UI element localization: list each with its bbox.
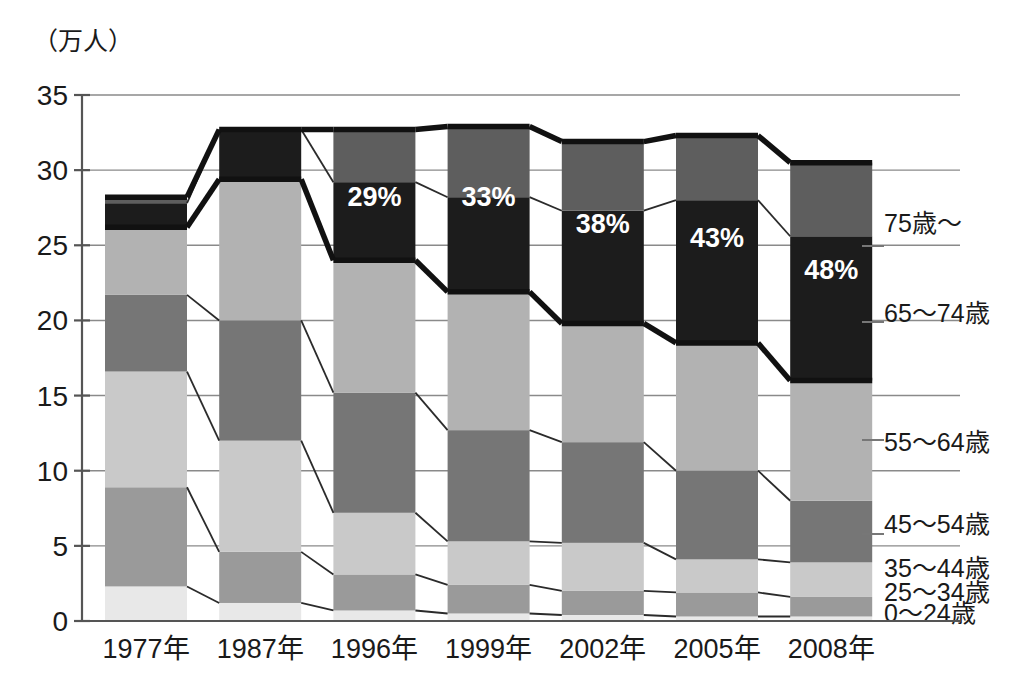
bar-segment (333, 513, 415, 575)
x-axis-ticks-group: 1977年1987年1996年1999年2002年2005年2008年 (102, 634, 874, 664)
y-tick-label: 0 (52, 606, 68, 637)
legend-label: 65～74歳 (884, 299, 990, 327)
legend-label: 75歳～ (884, 209, 962, 237)
y-tick-label: 10 (37, 456, 68, 487)
connector-line (415, 574, 447, 585)
connector-line (301, 320, 333, 392)
connector-line (415, 513, 447, 542)
connector-line (758, 471, 790, 501)
bar-segment (676, 136, 758, 201)
bar-segment (333, 574, 415, 610)
bar-segment (105, 203, 187, 227)
y-tick-label: 30 (37, 155, 68, 186)
bar-segment (562, 543, 644, 591)
bar-segment (448, 541, 530, 585)
connector-line (644, 591, 676, 593)
connector-line-emphasis (758, 136, 790, 163)
bar-segment (790, 501, 872, 563)
y-tick-label: 15 (37, 381, 68, 412)
connector-line (530, 430, 562, 442)
bar-segment (448, 430, 530, 541)
connector-line (644, 442, 676, 471)
connector-line (530, 197, 562, 211)
connector-line (415, 610, 447, 613)
stacked-bar-chart: （万人） 05101520253035 29%33%38%43%48% 1977… (0, 0, 1023, 685)
connector-line (530, 613, 562, 615)
connector-line (758, 559, 790, 562)
percent-annotation: 29% (347, 182, 401, 212)
bar-segment (562, 142, 644, 211)
bar-segment (790, 163, 872, 237)
bar-segment (333, 260, 415, 392)
bar-segment (790, 562, 872, 597)
bar-segment (562, 323, 644, 442)
legend-label: 55～64歳 (884, 428, 990, 456)
bar-segment (676, 343, 758, 471)
connector-line (187, 295, 219, 321)
bar-segment (105, 586, 187, 621)
bar-segment (562, 591, 644, 615)
bar-segment (219, 603, 301, 621)
connector-line-emphasis (415, 260, 447, 292)
bar-segment (333, 393, 415, 513)
bar-segment (790, 381, 872, 501)
connector-line (415, 182, 447, 197)
connector-line (301, 441, 333, 513)
connector-line (644, 200, 676, 211)
bar-segment (676, 200, 758, 343)
bar-segment (219, 179, 301, 320)
connector-line (301, 130, 333, 183)
connector-line (187, 372, 219, 441)
percent-annotation: 43% (690, 223, 744, 253)
bar-segment (676, 592, 758, 616)
connector-line (530, 585, 562, 591)
x-tick-label: 1999年 (445, 634, 532, 664)
bar-segment (676, 471, 758, 560)
y-tick-label: 5 (52, 531, 68, 562)
connector-line (301, 552, 333, 575)
connector-line (758, 200, 790, 236)
connector-line-emphasis (644, 323, 676, 343)
legend-label: 45～54歳 (884, 510, 990, 538)
bar-segment (105, 487, 187, 586)
percent-annotation: 48% (804, 255, 858, 285)
bar-segment (448, 613, 530, 621)
y-tick-label: 35 (37, 80, 68, 111)
bar-segment (219, 130, 301, 180)
legend-label: 0～24歳 (884, 599, 976, 627)
legend-group: 75歳～65～74歳55～64歳45～54歳35～44歳25～34歳0～24歳 (862, 209, 990, 627)
percent-annotation: 33% (462, 182, 516, 212)
percent-annotation: 38% (576, 209, 630, 239)
connector-line (415, 393, 447, 431)
connector-line (758, 592, 790, 597)
connector-line-emphasis (758, 343, 790, 381)
chart-canvas: （万人） 05101520253035 29%33%38%43%48% 1977… (0, 0, 1023, 685)
bar-segment (105, 372, 187, 488)
x-tick-label: 2005年 (673, 634, 760, 664)
connector-line-emphasis (415, 127, 447, 130)
bar-segment (448, 292, 530, 430)
bar-segment (219, 552, 301, 603)
connector-line-emphasis (530, 127, 562, 142)
x-tick-label: 2002年 (559, 634, 646, 664)
bar-segment (105, 227, 187, 295)
y-tick-label: 25 (37, 230, 68, 261)
y-axis-unit-label: （万人） (33, 27, 133, 55)
x-tick-label: 1977年 (102, 634, 189, 664)
connector-line-emphasis (644, 136, 676, 142)
bar-segment (790, 597, 872, 617)
connector-line (187, 586, 219, 603)
bar-segment (676, 559, 758, 592)
bar-segment (105, 295, 187, 372)
x-tick-label: 1996年 (331, 634, 418, 664)
bar-segment (219, 441, 301, 552)
connector-line (530, 541, 562, 543)
connector-line-emphasis (301, 179, 333, 260)
connector-line-emphasis (530, 292, 562, 324)
bar-segment (219, 320, 301, 440)
connector-line (644, 615, 676, 617)
bar-segment (333, 610, 415, 621)
bar-segment (333, 130, 415, 183)
connector-line (187, 487, 219, 552)
connector-line (301, 603, 333, 611)
